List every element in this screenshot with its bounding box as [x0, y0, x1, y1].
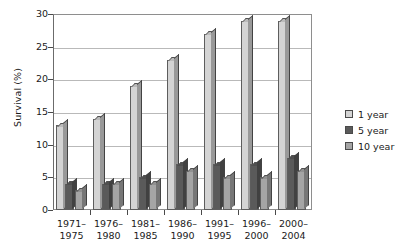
bar-group — [241, 14, 269, 210]
y-tick-label: 30 — [26, 9, 48, 19]
bar — [223, 177, 232, 210]
bar-group — [56, 14, 84, 210]
legend-label: 5 year — [358, 125, 388, 136]
bar-group — [278, 14, 306, 210]
bar-group — [130, 14, 158, 210]
y-tick-label: 20 — [26, 74, 48, 84]
bar — [139, 177, 148, 210]
bar — [149, 184, 158, 210]
x-tick-label: 2000–2004 — [266, 218, 322, 241]
legend-swatch-icon — [345, 126, 353, 134]
y-tick-label: 25 — [26, 42, 48, 52]
y-tick-label: 5 — [26, 172, 48, 182]
bar — [260, 177, 269, 210]
bar-group — [204, 14, 232, 210]
bar — [204, 34, 213, 210]
bar-group — [93, 14, 121, 210]
x-tick-mark — [238, 210, 239, 215]
bar — [65, 184, 74, 210]
bar — [56, 125, 65, 210]
bars-layer — [53, 14, 312, 210]
legend-item: 1 year — [345, 106, 394, 122]
x-tick-mark — [275, 210, 276, 215]
x-tick-label-line: 2004 — [266, 230, 322, 242]
legend-swatch-icon — [345, 110, 353, 118]
bar — [167, 60, 176, 210]
bar — [287, 158, 296, 210]
legend-item: 10 year — [345, 138, 394, 154]
legend-item: 5 year — [345, 122, 394, 138]
bar — [250, 164, 259, 210]
x-tick-mark — [90, 210, 91, 215]
legend-swatch-icon — [345, 142, 353, 150]
x-tick-mark — [127, 210, 128, 215]
bar-group — [167, 14, 195, 210]
legend-label: 1 year — [358, 109, 388, 120]
bar — [130, 86, 139, 210]
y-tick-mark — [48, 210, 53, 211]
survival-bar-chart: Survival (%) 051015202530 1971–19751976–… — [0, 0, 413, 248]
legend-label: 10 year — [358, 141, 394, 152]
x-tick-mark — [164, 210, 165, 215]
y-tick-label: 0 — [26, 205, 48, 215]
y-axis-title: Survival (%) — [12, 48, 23, 148]
bar — [186, 171, 195, 210]
y-tick-label: 10 — [26, 140, 48, 150]
bar — [176, 164, 185, 210]
bar — [213, 164, 222, 210]
x-tick-mark — [201, 210, 202, 215]
x-tick-label-line: 2000– — [266, 218, 322, 230]
chart-legend: 1 year5 year10 year — [345, 106, 394, 154]
y-tick-label: 15 — [26, 107, 48, 117]
bar — [112, 184, 121, 210]
bar — [102, 184, 111, 210]
bar — [75, 190, 84, 210]
bar — [297, 171, 306, 210]
bar — [241, 21, 250, 210]
bar — [278, 21, 287, 210]
bar — [93, 119, 102, 210]
